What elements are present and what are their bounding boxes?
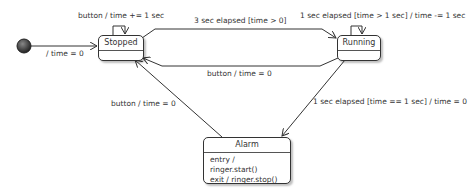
label-running-self: 1 sec elapsed [time > 1 sec] / time -= 1…	[300, 12, 465, 20]
state-alarm[interactable]: Alarm entry / ringer.start() exit / ring…	[203, 137, 291, 184]
edge-stopped-self	[113, 26, 125, 35]
state-stopped[interactable]: Stopped	[98, 35, 144, 61]
initial-state-icon	[17, 39, 31, 53]
edge-running-stopped	[143, 58, 338, 66]
edge-running-self	[351, 26, 362, 35]
label-running-alarm: 1 sec elapsed [time == 1 sec] / time = 0	[313, 98, 467, 106]
label-initial: / time = 0	[46, 50, 84, 58]
label-stopped-running: 3 sec elapsed [time > 0]	[194, 17, 287, 25]
label-alarm-stopped: button / time = 0	[111, 100, 176, 108]
state-name: Running	[338, 36, 380, 51]
state-running[interactable]: Running	[337, 35, 381, 61]
exit-action: exit / ringer.stop()	[210, 175, 284, 185]
state-name: Alarm	[204, 138, 290, 153]
label-stopped-self: button / time += 1 sec	[78, 12, 164, 20]
label-running-stopped: button / time = 0	[207, 70, 272, 78]
edge-stopped-running	[142, 29, 336, 38]
entry-action: entry / ringer.start()	[210, 155, 284, 175]
state-name: Stopped	[99, 36, 143, 51]
